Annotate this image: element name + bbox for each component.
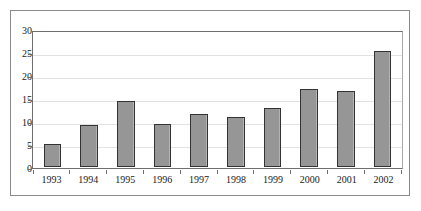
bar-1994[interactable] (80, 125, 98, 167)
bar-chart-figure: 30 25 20 15 10 5 0 (0, 0, 421, 211)
x-tick-label-1999: 1999 (254, 170, 291, 186)
x-tick-label-1996: 1996 (144, 170, 181, 186)
bar-1999[interactable] (264, 108, 282, 167)
x-tick-label-2000: 2000 (291, 170, 328, 186)
x-slot-2001: 2001 (328, 170, 365, 186)
bar-slot-2002 (364, 32, 401, 167)
x-slot-1994: 1994 (70, 170, 107, 186)
x-axis: 1993 1994 1995 1996 1997 1998 1999 2000 … (33, 170, 402, 186)
bar-1995[interactable] (117, 101, 135, 167)
bar-1993[interactable] (44, 144, 62, 167)
bar-slot-1999 (254, 32, 291, 167)
bar-1998[interactable] (227, 117, 245, 167)
x-tick-label-1994: 1994 (70, 170, 107, 186)
bar-2001[interactable] (337, 91, 355, 167)
bar-2000[interactable] (300, 89, 318, 167)
bars-layer (34, 32, 401, 167)
x-slot-1995: 1995 (107, 170, 144, 186)
x-tick-mark-start (33, 170, 34, 174)
x-tick-mark-2002 (401, 170, 402, 174)
x-tick-label-2002: 2002 (365, 170, 402, 186)
x-slot-1999: 1999 (254, 170, 291, 186)
bar-slot-2000 (291, 32, 328, 167)
bar-1997[interactable] (190, 114, 208, 167)
bar-slot-2001 (328, 32, 365, 167)
x-slot-1998: 1998 (218, 170, 255, 186)
bar-1996[interactable] (154, 124, 172, 167)
x-tick-label-1993: 1993 (33, 170, 70, 186)
x-slot-2000: 2000 (291, 170, 328, 186)
x-tick-label-1997: 1997 (181, 170, 218, 186)
bar-slot-1998 (218, 32, 255, 167)
bar-2002[interactable] (374, 51, 392, 167)
x-tick-label-1995: 1995 (107, 170, 144, 186)
x-tick-label-1998: 1998 (218, 170, 255, 186)
x-tick-label-2001: 2001 (328, 170, 365, 186)
bar-slot-1993 (34, 32, 71, 167)
bar-slot-1994 (71, 32, 108, 167)
x-slot-1997: 1997 (181, 170, 218, 186)
x-slot-1996: 1996 (144, 170, 181, 186)
bar-slot-1997 (181, 32, 218, 167)
bar-slot-1995 (107, 32, 144, 167)
x-slot-2002: 2002 (365, 170, 402, 186)
plot-area (32, 31, 403, 169)
x-slot-1993: 1993 (33, 170, 70, 186)
bar-slot-1996 (144, 32, 181, 167)
